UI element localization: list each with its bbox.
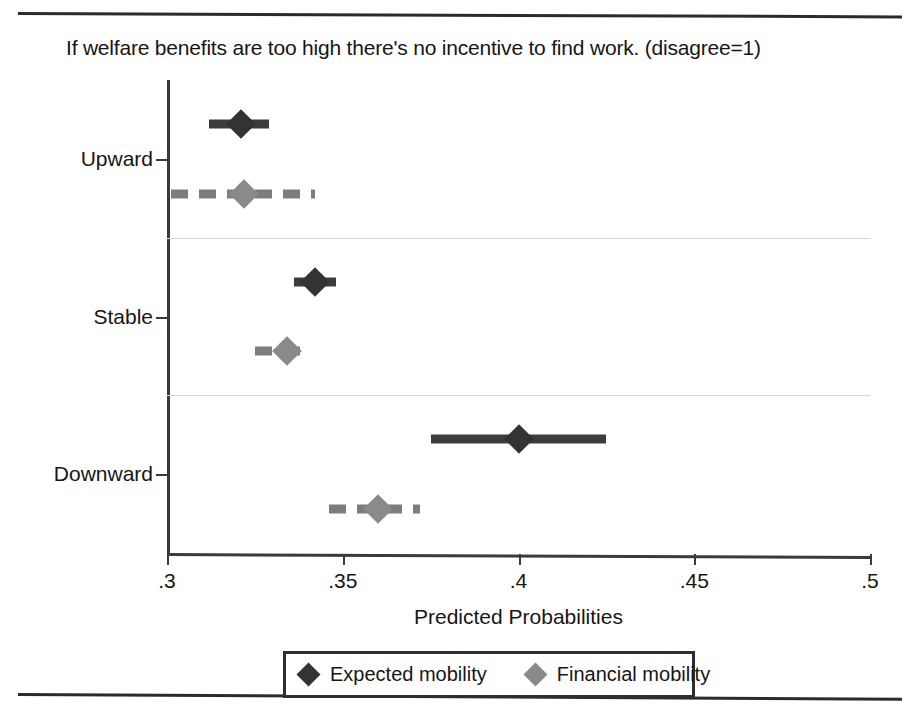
x-axis-tick [870,554,872,565]
x-axis-title: Predicted Probabilities [167,605,870,629]
x-axis-tick [519,554,521,565]
legend-item-financial-mobility: Financial mobility [527,663,710,686]
x-axis-tick [694,554,696,565]
chart-title: If welfare benefits are too high there's… [66,36,761,60]
data-point-marker [229,179,259,209]
x-axis-tick-label: .5 [861,569,879,593]
x-axis-tick-label: .45 [680,569,709,593]
x-axis-tick [343,554,345,565]
x-axis-tick-label: .4 [510,569,528,593]
data-point-marker [272,336,302,366]
data-point-marker [363,494,393,524]
y-axis-tick [156,474,167,476]
x-axis-tick-label: .3 [158,569,176,593]
legend-label-financial-mobility: Financial mobility [557,663,710,686]
data-point-marker [504,425,534,455]
data-point-marker [300,267,330,297]
diamond-icon [523,662,547,686]
figure-container: If welfare benefits are too high there's… [0,18,919,688]
y-axis-label-stable: Stable [93,305,153,329]
legend-item-expected-mobility: Expected mobility [300,663,487,686]
chart-legend: Expected mobility Financial mobility [283,651,695,698]
y-axis-line [167,80,170,553]
plot-area: Predicted Probabilities UpwardStableDown… [167,80,870,553]
diamond-icon [296,662,320,686]
gridline [167,395,870,396]
data-point-marker [226,109,256,139]
x-axis-tick-label: .35 [328,569,357,593]
y-axis-label-upward: Upward [81,147,153,171]
legend-label-expected-mobility: Expected mobility [330,663,487,686]
x-axis-tick [167,554,169,565]
y-axis-label-downward: Downward [54,462,153,486]
y-axis-tick [156,317,167,319]
gridline [167,238,870,239]
y-axis-tick [156,159,167,161]
